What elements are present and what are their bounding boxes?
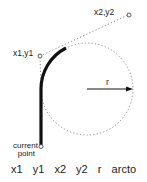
- current-point-label: current point: [0, 142, 38, 158]
- radius-arrowhead-icon: [126, 87, 133, 92]
- p1-label: x1,y1: [13, 49, 33, 58]
- p2-marker: [127, 13, 131, 17]
- radius-label: r: [106, 78, 109, 87]
- current-point-label-line2: point: [0, 150, 38, 158]
- arcto-path: [41, 48, 66, 145]
- current-point-marker: [39, 145, 43, 149]
- arcto-caption: x1 y1 x2 y2 r arcto: [0, 164, 147, 175]
- tangent-line-p2: [40, 15, 128, 56]
- p2-label: x2,y2: [94, 8, 114, 17]
- p1-marker: [38, 54, 42, 58]
